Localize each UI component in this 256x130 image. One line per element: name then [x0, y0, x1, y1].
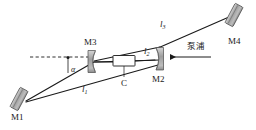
label-arm-l3-subscript: 3 [163, 24, 166, 30]
optical-cavity-figure: M1 M2 M3 M4 C l1 l2 l3 α 泵浦 [0, 0, 256, 130]
label-arm-l2-subscript: 2 [147, 51, 150, 57]
mirror-m1-body [10, 87, 28, 111]
diagram-canvas [0, 0, 256, 130]
label-m2: M2 [152, 75, 165, 84]
gain-crystal-c [113, 56, 135, 78]
mirror-m4 [225, 3, 243, 27]
label-m1: M1 [11, 113, 24, 122]
label-m4: M4 [228, 37, 241, 46]
crystal-body [113, 56, 135, 67]
label-m3: M3 [84, 38, 97, 47]
label-arm-l1: l1 [82, 85, 88, 95]
label-pump: 泵浦 [187, 42, 205, 51]
label-arm-l2: l2 [144, 47, 150, 57]
label-crystal-c: C [121, 79, 127, 88]
label-angle-alpha: α [71, 66, 75, 74]
mirror-m1 [10, 87, 28, 111]
mirror-m4-body [225, 3, 243, 27]
mirror-m2 [156, 48, 164, 71]
label-arm-l3: l3 [160, 20, 166, 30]
label-arm-l1-subscript: 1 [85, 89, 88, 95]
beam-path-l1 [26, 62, 94, 101]
